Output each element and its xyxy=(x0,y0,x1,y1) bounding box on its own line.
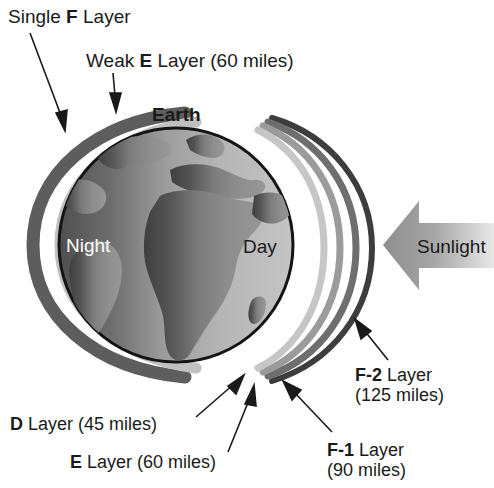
label-sunlight: Sunlight xyxy=(417,236,486,257)
label-f2-layer: F-2 Layer(125 miles) xyxy=(355,365,444,405)
label-night: Night xyxy=(66,235,110,256)
arrowhead-weak-e xyxy=(110,93,121,112)
label-earth: Earth xyxy=(152,104,201,125)
leader-d-layer xyxy=(196,384,234,417)
arrowhead-d-layer xyxy=(228,375,244,394)
leader-single-f xyxy=(30,33,62,118)
label-e-layer: E Layer (60 miles) xyxy=(70,452,216,472)
arrowhead-single-f xyxy=(56,110,67,131)
leader-f1-layer xyxy=(294,392,332,432)
label-day: Day xyxy=(243,236,277,257)
leader-e-layer xyxy=(228,400,249,452)
ionosphere-diagram: Single F Layer Weak E Layer (60 miles) E… xyxy=(0,0,494,488)
label-f1-layer: F-1 Layer(90 miles) xyxy=(327,440,406,480)
label-d-layer: D Layer (45 miles) xyxy=(10,414,157,434)
arrowhead-e-layer xyxy=(245,385,256,406)
label-single-f-layer: Single F Layer xyxy=(8,6,131,27)
label-weak-e-layer: Weak E Layer (60 miles) xyxy=(86,50,294,71)
